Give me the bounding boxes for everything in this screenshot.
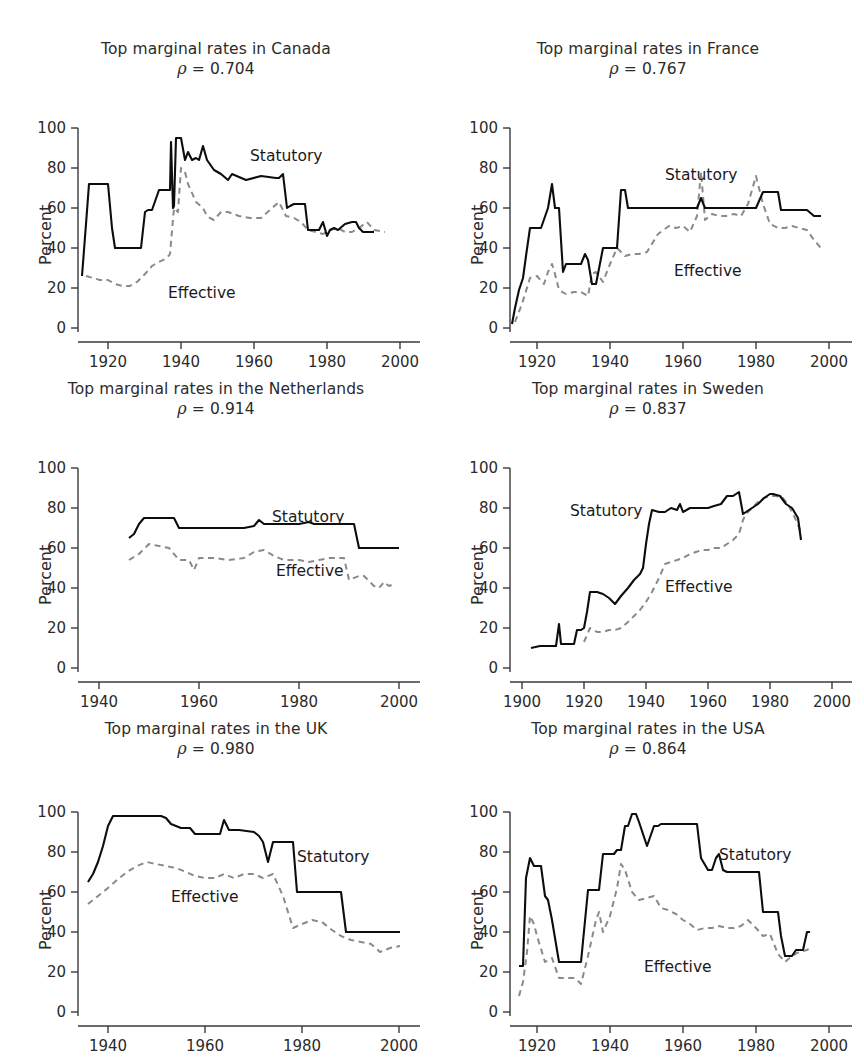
series-statutory-usa [519,814,810,966]
xtick-1920: 1920 [518,1037,556,1055]
series-statutory-netherlands [129,518,399,548]
ytick-40: 40 [479,579,498,597]
panel-usa: Top marginal rates in the USA ρ = 0.864 … [432,700,864,1058]
panel-sweden-plot: 100 80 60 40 20 0 1900 1920 [432,370,864,700]
xtick-1940: 1940 [162,353,200,371]
series-label-effective-canada: Effective [168,284,236,302]
series-statutory-france [512,184,821,324]
series-label-statutory-uk: Statutory [297,848,369,866]
ytick-100: 100 [37,119,66,137]
ytick-40: 40 [47,239,66,257]
ytick-20: 20 [47,279,66,297]
series-effective-netherlands [129,544,394,588]
panel-canada: Top marginal rates in Canada ρ = 0.704 P… [0,30,432,360]
xtick-1940: 1940 [591,1037,629,1055]
ytick-60: 60 [47,883,66,901]
series-statutory-uk [88,816,400,932]
panel-canada-y-axis: 100 80 60 40 20 0 [37,119,78,337]
series-label-effective-uk: Effective [171,888,239,906]
ytick-60: 60 [47,539,66,557]
ytick-20: 20 [479,619,498,637]
series-label-statutory-netherlands: Statutory [272,508,344,526]
series-label-statutory-usa: Statutory [719,846,791,864]
series-label-effective-sweden: Effective [665,578,733,596]
ytick-80: 80 [47,159,66,177]
xtick-1960: 1960 [186,1037,224,1055]
ytick-80: 80 [479,843,498,861]
ytick-80: 80 [47,499,66,517]
ytick-20: 20 [479,963,498,981]
ytick-0: 0 [56,319,66,337]
panel-france-plot: 100 80 60 40 20 0 1920 1940 1960 [432,30,864,360]
ytick-20: 20 [479,279,498,297]
panel-uk: Top marginal rates in the UK ρ = 0.980 P… [0,700,432,1058]
ytick-0: 0 [488,1003,498,1021]
ytick-40: 40 [47,923,66,941]
series-label-effective-netherlands: Effective [276,562,344,580]
ytick-0: 0 [56,1003,66,1021]
ytick-80: 80 [479,499,498,517]
xtick-1960: 1960 [664,1037,702,1055]
ytick-40: 40 [479,923,498,941]
ytick-60: 60 [479,539,498,557]
ytick-60: 60 [47,199,66,217]
ytick-60: 60 [479,883,498,901]
xtick-1920: 1920 [89,353,127,371]
panel-uk-x-axis: 1940 1960 1980 2000 [78,1026,420,1055]
panel-uk-y-axis: 100 80 60 40 20 0 [37,803,78,1021]
panel-sweden-y-axis: 100 80 60 40 20 0 [469,459,510,677]
xtick-2000: 2000 [810,353,848,371]
xtick-1980: 1980 [308,353,346,371]
ytick-20: 20 [47,963,66,981]
ytick-40: 40 [47,579,66,597]
ytick-80: 80 [47,843,66,861]
panel-sweden: Top marginal rates in Sweden ρ = 0.837 P… [432,370,864,700]
series-label-statutory-france: Statutory [665,166,737,184]
ytick-80: 80 [479,159,498,177]
xtick-1960: 1960 [235,353,273,371]
xtick-2000: 2000 [381,353,419,371]
panel-france-x-axis: 1920 1940 1960 1980 2000 [510,342,852,371]
panel-netherlands: Top marginal rates in the Netherlands ρ … [0,370,432,700]
panel-canada-plot: 100 80 60 40 20 0 1920 1940 [0,30,432,360]
series-label-effective-usa: Effective [644,958,712,976]
xtick-1940: 1940 [591,353,629,371]
series-label-statutory-sweden: Statutory [570,502,642,520]
ytick-100: 100 [37,459,66,477]
ytick-0: 0 [56,659,66,677]
ytick-100: 100 [37,803,66,821]
xtick-1960: 1960 [664,353,702,371]
xtick-2000: 2000 [810,1037,848,1055]
series-label-effective-france: Effective [674,262,742,280]
xtick-1940: 1940 [89,1037,127,1055]
tax-rate-small-multiples-figure: Top marginal rates in Canada ρ = 0.704 P… [0,0,864,1058]
xtick-1980: 1980 [283,1037,321,1055]
xtick-1980: 1980 [737,1037,775,1055]
panel-canada-x-axis: 1920 1940 1960 1980 2000 [78,342,420,371]
series-label-statutory-canada: Statutory [250,147,322,165]
panel-usa-y-axis: 100 80 60 40 20 0 [469,803,510,1021]
xtick-1980: 1980 [737,353,775,371]
panel-usa-x-axis: 1920 1940 1960 1980 2000 [510,1026,852,1055]
ytick-0: 0 [488,659,498,677]
panel-netherlands-y-axis: 100 80 60 40 20 0 [37,459,78,677]
series-statutory-canada [82,138,374,276]
panel-france-y-axis: 100 80 60 40 20 0 [469,119,510,337]
series-effective-usa [519,864,810,996]
series-effective-uk [88,862,400,952]
ytick-100: 100 [469,119,498,137]
ytick-20: 20 [47,619,66,637]
panel-uk-plot: 100 80 60 40 20 0 1940 1960 1980 2000 [0,700,432,1058]
ytick-100: 100 [469,803,498,821]
xtick-2000: 2000 [380,1037,418,1055]
ytick-60: 60 [479,199,498,217]
xtick-1920: 1920 [518,353,556,371]
panel-netherlands-plot: 100 80 60 40 20 0 1940 1960 1980 2000 [0,370,432,700]
ytick-0: 0 [488,319,498,337]
ytick-100: 100 [469,459,498,477]
ytick-40: 40 [479,239,498,257]
panel-usa-plot: 100 80 60 40 20 0 1920 1940 1960 [432,700,864,1058]
panel-france: Top marginal rates in France ρ = 0.767 P… [432,30,864,360]
